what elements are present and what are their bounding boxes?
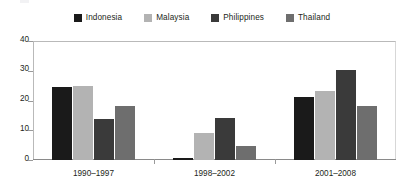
x-axis-category-label: 2001–2008 xyxy=(275,170,396,178)
bar xyxy=(315,91,335,160)
bar xyxy=(236,146,256,160)
bar-group xyxy=(52,41,135,160)
legend-item-malaysia: Malaysia xyxy=(144,14,189,22)
legend-label-malaysia: Malaysia xyxy=(156,14,189,22)
y-axis-tick-label: 0 xyxy=(24,155,29,163)
y-axis-tick-label: 30 xyxy=(20,65,29,73)
chart-legend: Indonesia Malaysia Philippines Thailand xyxy=(0,11,404,25)
bar xyxy=(73,86,93,160)
legend-label-philippines: Philippines xyxy=(223,14,264,22)
legend-label-thailand: Thailand xyxy=(298,14,330,22)
bar xyxy=(94,119,114,160)
legend-item-indonesia: Indonesia xyxy=(74,14,122,22)
bar-chart-figure: Indonesia Malaysia Philippines Thailand … xyxy=(0,0,404,191)
x-axis-group-separator xyxy=(275,159,276,164)
x-axis-group-separator xyxy=(154,159,155,164)
y-axis-tick-label: 10 xyxy=(20,125,29,133)
x-axis-category-label: 1990–1997 xyxy=(33,170,154,178)
y-axis-tick-label: 20 xyxy=(20,95,29,103)
bar-group xyxy=(173,41,256,160)
legend-item-philippines: Philippines xyxy=(211,14,264,22)
bar xyxy=(52,87,72,160)
bar xyxy=(357,106,377,160)
legend-swatch-malaysia xyxy=(144,14,152,22)
bar xyxy=(173,158,193,160)
y-axis-tick-0: 0 xyxy=(0,160,40,161)
x-axis-category-label: 1998–2002 xyxy=(154,170,275,178)
bar xyxy=(115,106,135,160)
y-axis-tick-mark xyxy=(28,160,33,161)
legend-item-thailand: Thailand xyxy=(286,14,330,22)
bar xyxy=(215,118,235,160)
y-axis-tick-label: 40 xyxy=(20,36,29,44)
scan-artifact xyxy=(20,0,29,3)
bar xyxy=(294,97,314,160)
legend-swatch-thailand xyxy=(286,14,294,22)
bar-group xyxy=(294,41,377,160)
bar xyxy=(336,70,356,160)
legend-swatch-philippines xyxy=(211,14,219,22)
bar xyxy=(194,133,214,160)
legend-swatch-indonesia xyxy=(74,14,82,22)
legend-label-indonesia: Indonesia xyxy=(86,14,122,22)
